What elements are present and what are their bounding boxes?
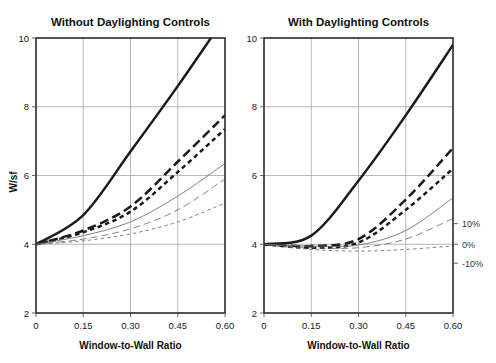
panel-right-ticks <box>260 38 453 317</box>
panel-with-daylighting: With Daylighting Controls 00.150.300.450… <box>246 16 483 351</box>
panel-right-grid <box>264 38 453 313</box>
figure-root: Without Daylighting Controls 00.150.300.… <box>0 0 496 363</box>
y-tick-label: 6 <box>252 170 257 181</box>
panel-left-ticks <box>32 38 225 317</box>
y-tick-label: 10 <box>246 33 257 44</box>
x-tick-label: 0.30 <box>349 320 368 331</box>
y-tick-label: 8 <box>252 101 257 112</box>
x-axis-title-right: Window-to-Wall Ratio <box>307 340 409 351</box>
y-tick-label: 8 <box>24 101 29 112</box>
x-tick-label: 0.60 <box>216 320 235 331</box>
x-tick-label: 0.45 <box>169 320 188 331</box>
legend-label-1: 0% <box>462 240 475 250</box>
x-tick-label: 0.15 <box>302 320 321 331</box>
legend-label-0: 10% <box>462 219 480 229</box>
x-tick-label: 0 <box>33 320 38 331</box>
panel-left-ticklabels: 00.150.300.450.60246810 <box>18 33 234 332</box>
x-axis-title-left: Window-to-Wall Ratio <box>79 340 181 351</box>
panel-right-ticklabels: 00.150.300.450.60246810 <box>246 33 462 332</box>
y-tick-label: 10 <box>18 33 29 44</box>
y-tick-label: 4 <box>252 239 257 250</box>
y-tick-label: 6 <box>24 170 29 181</box>
panel-without-daylighting: Without Daylighting Controls 00.150.300.… <box>8 16 234 351</box>
legend: 10%0%-10% <box>453 219 483 269</box>
panel-title-right: With Daylighting Controls <box>288 16 429 28</box>
y-tick-label: 4 <box>24 239 29 250</box>
x-tick-label: 0.60 <box>444 320 463 331</box>
y-tick-label: 2 <box>252 308 257 319</box>
y-axis-title-left: W/sf <box>8 171 19 193</box>
x-tick-label: 0.30 <box>121 320 140 331</box>
legend-label-2: -10% <box>462 259 483 269</box>
x-tick-label: 0.15 <box>74 320 93 331</box>
x-tick-label: 0 <box>261 320 266 331</box>
y-tick-label: 2 <box>24 308 29 319</box>
x-tick-label: 0.45 <box>397 320 416 331</box>
panel-left-grid <box>36 38 225 313</box>
panel-title-left: Without Daylighting Controls <box>51 16 210 28</box>
